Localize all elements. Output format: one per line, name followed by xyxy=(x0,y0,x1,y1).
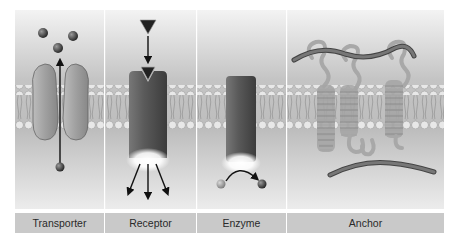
molecule-icon xyxy=(38,28,48,38)
substrate-icon xyxy=(217,180,226,189)
label-anchor: Anchor xyxy=(287,213,444,233)
molecule-icon xyxy=(68,31,78,41)
membrane-protein-diagram xyxy=(0,0,461,246)
product-icon xyxy=(258,180,267,189)
label-receptor: Receptor xyxy=(105,213,196,233)
molecule-icon xyxy=(56,163,65,172)
molecule-icon xyxy=(53,43,63,53)
label-transporter: Transporter xyxy=(15,213,104,233)
label-enzyme: Enzyme xyxy=(197,213,286,233)
